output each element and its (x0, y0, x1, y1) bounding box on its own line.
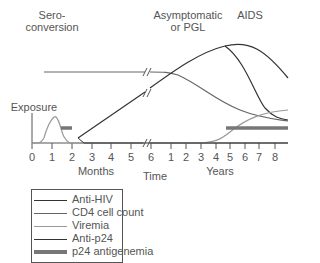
axis-label-years: Years (200, 165, 240, 177)
tick-month-2: 2 (65, 151, 79, 163)
legend-item-anti-p24: Anti-p24 (32, 233, 67, 245)
tick-month-0: 0 (25, 151, 39, 163)
axis-label-time: Time (140, 170, 170, 182)
legend-item-cd4: CD4 cell count (32, 207, 67, 219)
legend-label: CD4 cell count (72, 206, 144, 218)
legend-label: p24 antigenemia (72, 245, 153, 257)
legend-item-p24-antigenemia: p24 antigenemia (32, 246, 67, 258)
legend-swatch (34, 239, 67, 240)
tick-year-7: 7 (252, 151, 266, 163)
legend-swatch (34, 250, 67, 254)
tick-year-2: 2 (179, 151, 193, 163)
legend-swatch (34, 200, 67, 201)
legend-item-viremia: Viremia (32, 220, 67, 232)
tick-month-1: 1 (45, 151, 59, 163)
legend-label: Anti-p24 (72, 232, 113, 244)
legend-swatch (34, 213, 67, 214)
legend-label: Viremia (72, 219, 109, 231)
tick-year-6: 6 (238, 151, 252, 163)
tick-year-8: 8 (268, 151, 282, 163)
tick-month-4: 4 (104, 151, 118, 163)
legend-swatch (34, 226, 67, 227)
tick-year-3: 3 (194, 151, 208, 163)
tick-month-6: 6 (144, 151, 158, 163)
axis-label-months: Months (74, 165, 118, 177)
tick-month-5: 5 (124, 151, 138, 163)
tick-year-5: 5 (223, 151, 237, 163)
tick-month-3: 3 (85, 151, 99, 163)
tick-year-4: 4 (209, 151, 223, 163)
legend-label: Anti-HIV (72, 193, 113, 205)
legend: Anti-HIV CD4 cell count Viremia Anti-p24… (31, 189, 123, 263)
tick-year-1: 1 (164, 151, 178, 163)
legend-item-anti-hiv: Anti-HIV (32, 194, 67, 206)
